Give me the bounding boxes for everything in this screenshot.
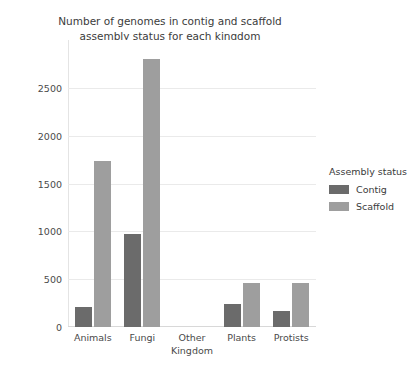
x-tick-label-protists: Protists [274, 332, 309, 343]
x-tick-label-fungi: Fungi [130, 332, 156, 343]
legend-swatch-scaffold [329, 202, 349, 211]
x-tick-label-plants: Plants [227, 332, 256, 343]
gridline [68, 136, 316, 137]
bar-fungi-contig [124, 234, 141, 327]
legend-item-contig[interactable]: Contig [329, 184, 407, 195]
bar-protists-contig [273, 311, 290, 327]
bar-protists-scaffold [292, 283, 309, 327]
bar-plants-contig [224, 304, 241, 327]
y-tick-label: 2000 [22, 130, 62, 141]
legend-swatch-contig [329, 185, 349, 194]
legend-item-scaffold[interactable]: Scaffold [329, 201, 407, 212]
bar-animals-contig [75, 307, 92, 327]
bar-animals-scaffold [94, 161, 111, 327]
legend-entries: ContigScaffold [329, 184, 407, 212]
plot-area [68, 40, 316, 327]
x-tick-label-other: Other [179, 332, 206, 343]
y-tick-label: 1500 [22, 178, 62, 189]
x-axis-label: Kingdom [171, 345, 213, 356]
y-tick-label: 1000 [22, 226, 62, 237]
bar-fungi-scaffold [143, 59, 160, 327]
x-tick-label-animals: Animals [74, 332, 112, 343]
bar-plants-scaffold [243, 283, 260, 327]
legend-label-contig: Contig [356, 184, 387, 195]
chart-page: Number of genomes in contig and scaffold… [0, 0, 418, 378]
legend: Assembly status ContigScaffold [329, 166, 407, 218]
gridline [68, 88, 316, 89]
y-tick-label: 2500 [22, 82, 62, 93]
legend-label-scaffold: Scaffold [356, 201, 394, 212]
legend-title: Assembly status [329, 166, 407, 177]
y-tick-label: 0 [22, 322, 62, 333]
y-tick-label: 500 [22, 274, 62, 285]
